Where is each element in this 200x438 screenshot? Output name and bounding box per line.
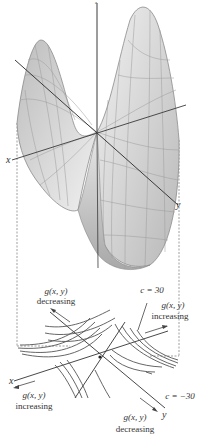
label-c-neg30: c = −30 [165, 391, 195, 401]
svg-text:g(x, y): g(x, y) [45, 286, 68, 296]
contour-y-label: y [161, 409, 167, 420]
label-bottom-fn: g(x, y) [124, 412, 147, 422]
surface-z-label: z [94, 0, 97, 5]
surface-y-label: y [175, 199, 181, 210]
contour-x-label: x [8, 375, 14, 386]
surface-right-lobe [95, 7, 179, 266]
contour-plot: g(x, y) decreasing c = 30 g(x, y) increa… [8, 285, 195, 434]
label-c-30: c = 30 [140, 285, 164, 295]
label-bottom-left-fn: g(x, y) [23, 390, 46, 400]
saddle-point [98, 355, 101, 358]
label-bottom-left-dir: increasing [16, 401, 53, 411]
arrow-top-left [53, 310, 70, 322]
label-right-fn: g(x, y) [162, 300, 185, 310]
surface-x-label: x [5, 154, 11, 165]
label-right-dir: increasing [152, 311, 189, 321]
label-top-left-fn: g(x, y) [45, 286, 68, 296]
saddle-figure: z x y [0, 0, 200, 438]
label-bottom-dir: decreasing [116, 424, 155, 434]
saddle-figure-svg: z x y [0, 0, 200, 438]
label-top-left-dir: decreasing [37, 296, 76, 306]
